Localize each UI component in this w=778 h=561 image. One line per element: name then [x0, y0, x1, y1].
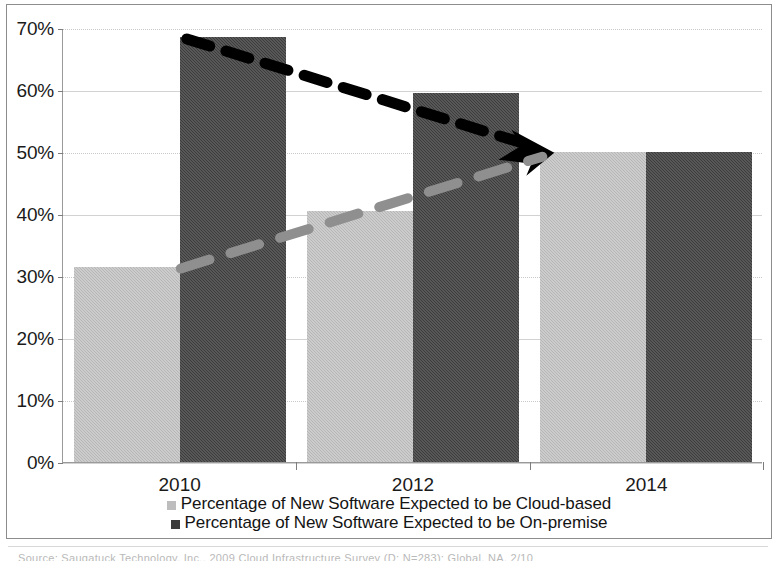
- legend-item-onprem[interactable]: Percentage of New Software Expected to b…: [7, 513, 771, 532]
- gridline: [63, 463, 762, 464]
- y-axis-tick: [58, 463, 63, 464]
- source-caption: Source: Saugatuck Technology, Inc., 2009…: [18, 552, 758, 561]
- legend-label: Percentage of New Software Expected to b…: [181, 494, 611, 513]
- x-axis-label-2010: 2010: [159, 474, 201, 496]
- x-axis-label-2014: 2014: [625, 474, 667, 496]
- y-axis-label: 20%: [17, 328, 54, 350]
- x-axis-tick: [763, 462, 764, 470]
- chart-screenshot: 0%10%20%30%40%50%60%70% 201020122014 Per…: [0, 0, 778, 561]
- y-axis-tick: [58, 215, 63, 216]
- bar-cloud-2014: [540, 152, 646, 462]
- gridline: [63, 29, 762, 30]
- plot-area: 0%10%20%30%40%50%60%70% 201020122014: [62, 29, 762, 463]
- y-axis-label: 30%: [17, 266, 54, 288]
- legend-swatch-onprem-icon: [171, 520, 180, 529]
- y-axis-label: 40%: [17, 204, 54, 226]
- y-axis-label: 0%: [27, 452, 54, 474]
- y-axis-tick: [58, 91, 63, 92]
- bar-onprem-2012: [413, 93, 519, 462]
- y-axis-tick: [58, 277, 63, 278]
- y-axis-tick: [58, 339, 63, 340]
- y-axis-tick: [58, 401, 63, 402]
- gridline: [63, 91, 762, 92]
- y-axis-label: 10%: [17, 390, 54, 412]
- bar-cloud-2012: [307, 211, 413, 462]
- y-axis-label: 70%: [17, 18, 54, 40]
- legend-swatch-cloud-icon: [167, 501, 176, 510]
- bar-onprem-2014: [646, 152, 752, 462]
- legend-label: Percentage of New Software Expected to b…: [185, 513, 608, 532]
- bar-cloud-2010: [74, 267, 180, 462]
- caption-divider: [8, 546, 768, 547]
- y-axis-tick: [58, 29, 63, 30]
- chart-frame: 0%10%20%30%40%50%60%70% 201020122014 Per…: [6, 4, 772, 539]
- chart-legend: Percentage of New Software Expected to b…: [7, 494, 771, 532]
- x-axis-label-2012: 2012: [392, 474, 434, 496]
- x-axis-tick: [530, 462, 531, 470]
- y-axis-label: 50%: [17, 142, 54, 164]
- bar-onprem-2010: [180, 37, 286, 462]
- y-axis-tick: [58, 153, 63, 154]
- x-axis-tick: [296, 462, 297, 470]
- legend-item-cloud[interactable]: Percentage of New Software Expected to b…: [7, 494, 771, 513]
- y-axis-label: 60%: [17, 80, 54, 102]
